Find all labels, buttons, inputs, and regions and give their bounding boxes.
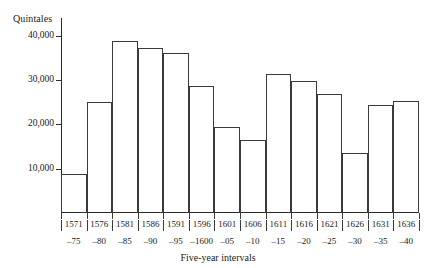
y-axis-tick-label: 10,000 (0, 164, 54, 174)
bar (266, 74, 292, 213)
x-axis-label-end: –15 (266, 236, 292, 247)
x-axis-label-end: –30 (342, 236, 368, 247)
x-axis-label-separator (240, 220, 241, 231)
x-axis-label-group: 1616–20 (291, 219, 317, 251)
x-axis-label-start: 1591 (163, 219, 189, 230)
x-axis-label-end: –40 (393, 236, 419, 247)
y-axis-tick-label-text: 10,000 (0, 164, 54, 174)
x-axis-label-start: 1631 (368, 219, 394, 230)
x-axis-label-group: 1606–10 (240, 219, 266, 251)
x-axis-label-start: 1596 (189, 219, 215, 230)
x-axis-label-start: 1606 (240, 219, 266, 230)
y-axis-tick-label-text: 30,000 (0, 75, 54, 85)
bar (317, 94, 343, 213)
bar (240, 140, 266, 213)
x-axis-label-group: 1636–40 (393, 219, 419, 251)
x-axis-label-separator (368, 220, 369, 231)
x-axis-label-separator (419, 220, 420, 231)
x-axis-label-end: –10 (240, 236, 266, 247)
bar (368, 105, 394, 213)
x-axis-label-start: 1571 (61, 219, 87, 230)
y-axis-tick-label: 30,000 (0, 75, 54, 85)
x-axis-label-separator (266, 220, 267, 231)
x-axis-label-group: 1576–80 (87, 219, 113, 251)
x-axis-label-start: 1586 (138, 219, 164, 230)
x-axis-label-end: –90 (138, 236, 164, 247)
x-axis-label-start: 1576 (87, 219, 113, 230)
x-axis-label-end: –85 (112, 236, 138, 247)
x-axis-label-start: 1636 (393, 219, 419, 230)
x-axis-label-separator (87, 220, 88, 231)
x-axis-label-start: 1616 (291, 219, 317, 230)
bar (214, 127, 240, 213)
x-axis-label-separator (393, 220, 394, 231)
histogram-figure: Quintales 10,00020,00030,00040,000 1571–… (0, 0, 436, 268)
y-axis-tick-label-text: 20,000 (0, 119, 54, 129)
bar (189, 86, 215, 213)
x-axis-label-start: 1626 (342, 219, 368, 230)
x-axis-label-separator (342, 220, 343, 231)
x-axis-tick-labels: 1571–751576–801581–851586–901591–951596–… (61, 219, 419, 251)
bar (342, 153, 368, 213)
x-axis-label-separator (163, 220, 164, 231)
x-axis-label-start: 1601 (214, 219, 240, 230)
x-axis-label-separator (317, 220, 318, 231)
x-axis-label-separator (214, 220, 215, 231)
y-axis-title: Quintales (13, 13, 52, 25)
x-axis-label-end: –75 (61, 236, 87, 247)
y-axis-tick-label: 40,000 (0, 31, 54, 41)
x-axis-divider (419, 213, 420, 219)
bar (61, 174, 87, 213)
y-axis-tick-label: 20,000 (0, 119, 54, 129)
x-axis-label-group: 1596–1600 (189, 219, 215, 251)
x-axis-label-group: 1626–30 (342, 219, 368, 251)
bar (112, 41, 138, 213)
x-axis-label-separator (189, 220, 190, 231)
x-axis-label-group: 1571–75 (61, 219, 87, 251)
x-axis-label-end: –20 (291, 236, 317, 247)
bar (393, 101, 419, 213)
x-axis-label-separator (138, 220, 139, 231)
x-axis-label-end: –35 (368, 236, 394, 247)
x-axis-label-group: 1586–90 (138, 219, 164, 251)
x-axis-label-separator (61, 220, 62, 231)
plot-area (61, 18, 419, 213)
x-axis-label-start: 1611 (266, 219, 292, 230)
x-axis-label-separator (291, 220, 292, 231)
bar (138, 48, 164, 213)
bar (163, 53, 189, 213)
x-axis-label-end: –80 (87, 236, 113, 247)
bar (291, 81, 317, 213)
x-axis-label-group: 1621–25 (317, 219, 343, 251)
x-axis-label-start: 1621 (317, 219, 343, 230)
x-axis-label-separator (112, 220, 113, 231)
x-axis-label-group: 1591–95 (163, 219, 189, 251)
x-axis-title: Five-year intervals (0, 252, 436, 264)
x-axis-label-start: 1581 (112, 219, 138, 230)
x-axis-label-end: –05 (214, 236, 240, 247)
x-axis-label-group: 1601–05 (214, 219, 240, 251)
y-axis-tick-label-text: 40,000 (0, 31, 54, 41)
x-axis-label-group: 1581–85 (112, 219, 138, 251)
x-axis-label-end: –25 (317, 236, 343, 247)
x-axis-label-group: 1611–15 (266, 219, 292, 251)
bar (87, 102, 113, 213)
x-axis-label-end: –95 (163, 236, 189, 247)
x-axis-label-end: –1600 (189, 236, 215, 247)
x-axis-label-group: 1631–35 (368, 219, 394, 251)
